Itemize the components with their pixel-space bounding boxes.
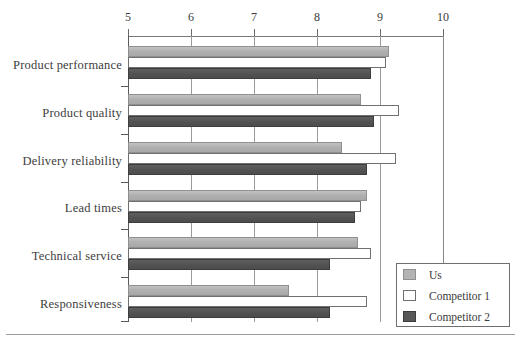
legend-item-us[interactable]: Us	[397, 264, 509, 285]
y-group-tick-4	[121, 229, 129, 230]
legend-label-competitor-1: Competitor 1	[429, 290, 490, 302]
category-label-lead-times: Lead times	[2, 201, 122, 216]
x-tick-label-6: 6	[188, 10, 194, 25]
bar-competitor-2-technical-service	[128, 259, 330, 270]
bar-us-technical-service	[128, 237, 358, 248]
bar-us-responsiveness	[128, 285, 289, 296]
category-label-delivery-reliability: Delivery reliability	[2, 154, 122, 169]
y-group-tick-2	[121, 134, 129, 135]
y-group-tick-5	[121, 277, 129, 278]
x-tick-label-9: 9	[377, 10, 383, 25]
category-label-product-quality: Product quality	[2, 106, 122, 121]
chart-legend: Us Competitor 1 Competitor 2	[396, 263, 510, 327]
legend-item-competitor-2[interactable]: Competitor 2	[397, 306, 509, 327]
y-axis-bottom-tick	[121, 321, 129, 322]
legend-swatch-competitor-1-icon	[403, 290, 416, 301]
x-tick-label-7: 7	[251, 10, 257, 25]
y-group-tick-1	[121, 86, 129, 87]
legend-swatch-us-icon	[403, 269, 416, 280]
bar-us-product-performance	[128, 46, 389, 57]
category-label-technical-service: Technical service	[2, 249, 122, 264]
x-tick-label-5: 5	[125, 10, 131, 25]
category-label-responsiveness: Responsiveness	[2, 297, 122, 312]
bar-competitor-1-lead-times	[128, 201, 361, 212]
bar-competitor-2-delivery-reliability	[128, 164, 367, 175]
footer-rule	[6, 334, 515, 335]
legend-label-competitor-2: Competitor 2	[429, 311, 490, 323]
x-tick-label-10: 10	[437, 10, 449, 25]
category-label-product-performance: Product performance	[2, 58, 122, 73]
bar-competitor-2-lead-times	[128, 212, 355, 223]
bar-competitor-1-product-quality	[128, 105, 399, 116]
bar-competitor-2-product-quality	[128, 116, 374, 127]
bar-us-product-quality	[128, 94, 361, 105]
bar-competitor-1-product-performance	[128, 57, 386, 68]
bar-us-lead-times	[128, 190, 367, 201]
bar-competitor-1-responsiveness	[128, 296, 367, 307]
bar-competitor-2-product-performance	[128, 68, 371, 79]
bar-us-delivery-reliability	[128, 142, 342, 153]
bar-competitor-2-responsiveness	[128, 307, 330, 318]
legend-label-us: Us	[429, 269, 442, 281]
bar-chart: 5 6 7 8 9 10 Product performance Product…	[0, 0, 521, 343]
x-axis-line	[128, 36, 444, 37]
gridline-9	[380, 36, 381, 322]
x-tick-label-8: 8	[314, 10, 320, 25]
legend-item-competitor-1[interactable]: Competitor 1	[397, 285, 509, 306]
legend-swatch-competitor-2-icon	[403, 311, 416, 322]
y-group-tick-3	[121, 182, 129, 183]
bar-competitor-1-technical-service	[128, 248, 371, 259]
bar-competitor-1-delivery-reliability	[128, 153, 396, 164]
